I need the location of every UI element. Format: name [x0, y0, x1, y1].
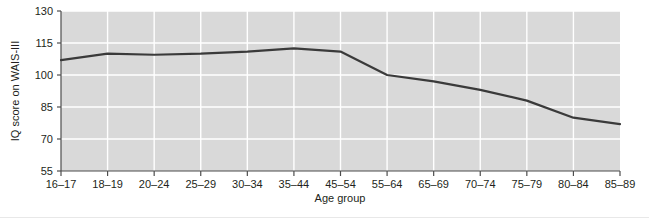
x-axis-tick-label: 70–74 — [465, 178, 496, 190]
x-axis-tick-label: 85–89 — [605, 178, 636, 190]
bottom-divider — [0, 217, 649, 218]
y-axis-tick-label: 55 — [41, 165, 53, 177]
x-axis-tick-label: 35–44 — [279, 178, 310, 190]
y-axis-tick-label: 115 — [35, 37, 53, 49]
y-axis-tick-label: 130 — [35, 5, 53, 17]
x-axis-tick-label: 55–64 — [372, 178, 403, 190]
y-axis-tick-label: 100 — [35, 69, 53, 81]
y-axis-title: IQ score on WAIS-III — [9, 41, 21, 141]
chart-figure: 557085100115130 16–1718–1920–2425–2930–3… — [0, 0, 649, 220]
x-axis-tick-label: 16–17 — [46, 178, 77, 190]
x-axis-tick-label: 45–54 — [325, 178, 356, 190]
x-axis-title: Age group — [315, 192, 366, 204]
x-axis-tick-label: 30–34 — [232, 178, 263, 190]
x-axis-tick-label: 80–84 — [558, 178, 589, 190]
y-axis-tick-label: 85 — [41, 101, 53, 113]
x-axis-tick-label: 65–69 — [418, 178, 449, 190]
x-axis-tick-label: 25–29 — [185, 178, 216, 190]
x-axis-tick-label: 20–24 — [139, 178, 170, 190]
x-axis-tick-label: 75–79 — [512, 178, 543, 190]
x-axis-tick-label: 18–19 — [92, 178, 123, 190]
iq-by-age-line-chart: 557085100115130 16–1718–1920–2425–2930–3… — [0, 0, 649, 220]
y-axis-tick-label: 70 — [41, 133, 53, 145]
